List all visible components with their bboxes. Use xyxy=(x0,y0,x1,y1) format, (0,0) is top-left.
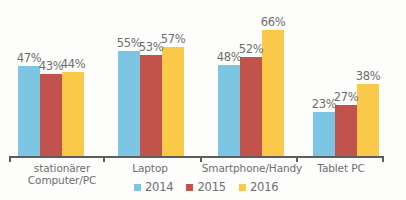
category-label: Laptop xyxy=(100,162,200,174)
bar-group xyxy=(18,0,84,157)
data-label: 57% xyxy=(153,32,193,46)
plot-area xyxy=(0,0,406,157)
bar-group-bars xyxy=(118,0,184,156)
data-label: 52% xyxy=(231,42,271,56)
bar-2014-4 xyxy=(313,112,335,156)
legend-swatch-icon xyxy=(239,184,246,191)
data-label: 44% xyxy=(53,57,93,71)
category-label: Tablet PC xyxy=(295,162,387,174)
x-axis-line xyxy=(9,156,383,158)
legend-item-2016[interactable]: 2016 xyxy=(239,180,278,194)
legend-label: 2016 xyxy=(250,180,278,194)
bar-2016-2 xyxy=(162,47,184,156)
bar-2015-3 xyxy=(240,57,262,156)
bar-2015-1 xyxy=(40,74,62,156)
legend-item-2015[interactable]: 2015 xyxy=(186,180,225,194)
category-label-line: Laptop xyxy=(100,162,200,174)
legend-item-2014[interactable]: 2014 xyxy=(134,180,173,194)
legend-label: 2015 xyxy=(197,180,225,194)
bar-chart: 201420152016 47%43%44%stationärerCompute… xyxy=(0,0,406,200)
category-label-line: Computer/PC xyxy=(8,174,116,186)
chart-legend: 201420152016 xyxy=(134,180,278,194)
legend-swatch-icon xyxy=(186,184,193,191)
bar-group xyxy=(118,0,184,157)
bar-2015-4 xyxy=(335,105,357,156)
data-label: 27% xyxy=(326,90,366,104)
data-label: 38% xyxy=(348,69,388,83)
bar-2014-3 xyxy=(218,65,240,156)
category-label: Smartphone/Handy xyxy=(198,162,306,174)
bar-2016-1 xyxy=(62,72,84,156)
bar-2014-1 xyxy=(18,66,40,156)
legend-swatch-icon xyxy=(134,184,141,191)
data-label: 66% xyxy=(253,15,293,29)
bar-2015-2 xyxy=(140,55,162,156)
bar-group-bars xyxy=(18,0,84,156)
bar-2014-2 xyxy=(118,51,140,156)
category-label-line: Tablet PC xyxy=(295,162,387,174)
category-label-line: Smartphone/Handy xyxy=(198,162,306,174)
legend-label: 2014 xyxy=(145,180,173,194)
